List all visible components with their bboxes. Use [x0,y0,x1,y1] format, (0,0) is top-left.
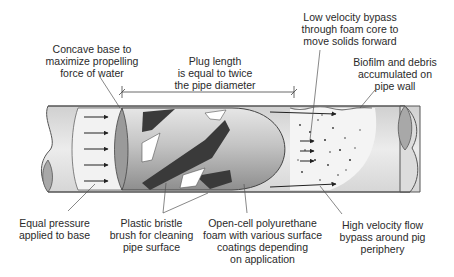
label-biofilm: Biofilm and debris accumulated on pipe w… [340,56,450,92]
label-low-velocity: Low velocity bypass through foam core to… [285,11,415,47]
label-equal-pressure: Equal pressure applied to base [12,217,97,241]
label-concave-base: Concave base to maximize propelling forc… [27,43,157,79]
label-high-velocity: High velocity flow bypass around pig per… [330,219,435,255]
label-foam: Open-cell polyurethane foam with various… [200,217,325,265]
label-plug-length: Plug length is equal to twice the pipe d… [160,55,270,91]
label-bristle-brush: Plastic bristle brush for cleaning pipe … [104,217,199,253]
